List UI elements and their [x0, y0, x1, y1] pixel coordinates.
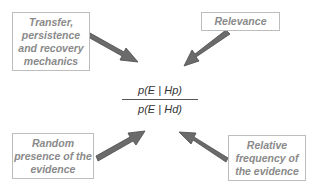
likelihood-ratio-formula: p(E | Hp) p(E | Hd): [120, 84, 200, 115]
formula-denominator: p(E | Hd): [120, 100, 200, 115]
formula-numerator: p(E | Hp): [120, 84, 200, 99]
arrow-relevance: [184, 30, 230, 66]
box-label: Relative frequency of the evidence: [229, 139, 305, 178]
box-relevance: Relevance: [201, 12, 280, 31]
box-label: Random presence of the evidence: [13, 137, 93, 176]
arrow-relative: [179, 132, 228, 162]
box-transfer-persistence-recovery: Transfer, persistence and recovery mecha…: [12, 12, 90, 71]
arrow-random: [96, 131, 145, 161]
box-label: Transfer, persistence and recovery mecha…: [13, 16, 89, 68]
box-relative-frequency: Relative frequency of the evidence: [228, 135, 306, 181]
box-random-presence: Random presence of the evidence: [12, 133, 94, 179]
arrow-transfer: [88, 33, 138, 62]
box-label: Relevance: [215, 15, 267, 28]
